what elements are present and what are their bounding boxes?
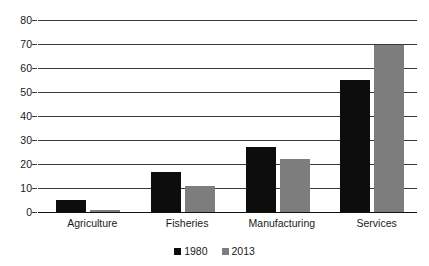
legend-square-marker-icon <box>222 248 229 255</box>
bar-group-bars <box>38 20 133 212</box>
bar-1980-agriculture[interactable] <box>56 200 86 212</box>
y-axis-tick-mark <box>32 140 37 141</box>
y-axis-tick-label: 70 <box>6 39 32 49</box>
legend-item-1980[interactable]: 1980 <box>174 246 207 257</box>
chart-title <box>0 0 429 8</box>
legend-label: 2013 <box>232 246 255 257</box>
x-axis-line <box>38 212 417 213</box>
bar-group <box>133 20 228 212</box>
y-axis-tick-label: 10 <box>6 183 32 193</box>
bar-group <box>38 20 133 212</box>
y-axis-tick-mark <box>32 164 37 165</box>
y-axis-tick-label: 30 <box>6 135 32 145</box>
bar-2013-fisheries[interactable] <box>185 186 215 212</box>
x-axis-label-agriculture: Agriculture <box>38 214 133 232</box>
bar-2013-manufacturing[interactable] <box>280 159 310 212</box>
bar-group <box>322 20 417 212</box>
bar-1980-manufacturing[interactable] <box>246 147 276 212</box>
chart-legend: 19802013 <box>0 243 429 259</box>
x-axis-label-fisheries: Fisheries <box>133 214 228 232</box>
bar-2013-agriculture[interactable] <box>90 210 120 212</box>
y-axis: 80706050403020100 <box>0 20 32 212</box>
y-axis-tick-label: 20 <box>6 159 32 169</box>
y-axis-tick-label: 60 <box>6 63 32 73</box>
y-axis-tick-mark <box>32 44 37 45</box>
bar-1980-fisheries[interactable] <box>151 172 181 212</box>
y-axis-tick-label: 80 <box>6 15 32 25</box>
bar-chart: 80706050403020100 AgricultureFisheriesMa… <box>0 0 429 266</box>
y-axis-tick-label: 50 <box>6 87 32 97</box>
y-axis-tick-mark <box>32 92 37 93</box>
legend-square-marker-icon <box>174 248 181 255</box>
bar-groups <box>38 20 417 212</box>
bar-2013-services[interactable] <box>374 45 404 212</box>
bar-group-bars <box>133 20 228 212</box>
bar-group-bars <box>322 20 417 212</box>
bar-group-bars <box>228 20 323 212</box>
y-axis-tick-mark <box>32 68 37 69</box>
x-axis-label-services: Services <box>322 214 417 232</box>
legend-label: 1980 <box>184 246 207 257</box>
y-axis-tick-mark <box>32 20 37 21</box>
y-axis-tick-mark <box>32 116 37 117</box>
x-axis-category-labels: AgricultureFisheriesManufacturingService… <box>38 214 417 232</box>
y-axis-tick-label: 40 <box>6 111 32 121</box>
bar-1980-services[interactable] <box>340 80 370 212</box>
y-axis-tick-label: 0 <box>6 207 32 217</box>
legend-item-2013[interactable]: 2013 <box>222 246 255 257</box>
y-axis-tick-mark <box>32 212 37 213</box>
bar-group <box>228 20 323 212</box>
y-axis-tick-mark <box>32 188 37 189</box>
x-axis-label-manufacturing: Manufacturing <box>228 214 323 232</box>
